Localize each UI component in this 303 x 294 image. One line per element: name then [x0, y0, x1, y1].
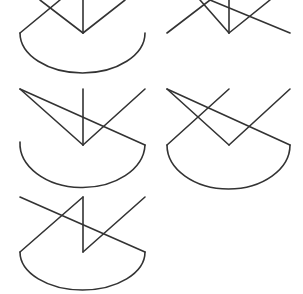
line-segment	[20, 0, 60, 33]
line-segment	[20, 197, 83, 252]
figure-4	[167, 89, 290, 189]
figure-5	[20, 197, 145, 290]
line-segment	[167, 89, 290, 145]
figure-2	[167, 0, 290, 33]
line-segment	[20, 89, 83, 145]
line-segment	[40, 0, 83, 33]
line-segment	[83, 197, 145, 252]
line-segment	[83, 0, 125, 33]
figure-3	[20, 89, 145, 188]
line-segment	[200, 0, 229, 33]
semicircle-arc	[20, 252, 145, 290]
line-segment	[210, 0, 290, 33]
semicircle-arc	[20, 142, 145, 188]
line-segment	[83, 89, 145, 145]
semicircle-arc	[167, 145, 290, 189]
semicircle-arc	[20, 33, 145, 73]
diagram-canvas	[0, 0, 303, 294]
figure-1	[20, 0, 145, 73]
line-segment	[229, 89, 290, 145]
